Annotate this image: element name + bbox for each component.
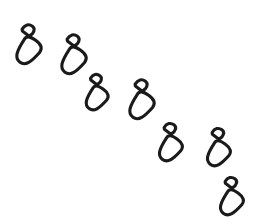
footprint-trail-icon: Footprint Trail	[0, 0, 253, 218]
background	[0, 0, 253, 218]
icon-canvas: Footprint Trail	[0, 0, 253, 218]
